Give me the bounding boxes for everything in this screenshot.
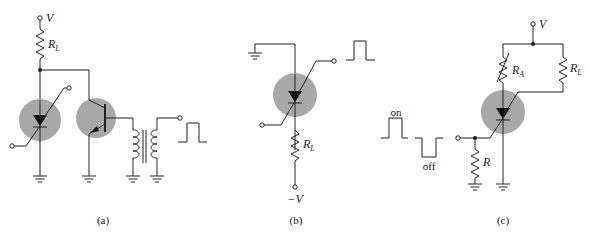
ground-icon [150, 176, 164, 182]
ground-icon [248, 53, 262, 59]
gate-resistor-r [471, 149, 479, 178]
secondary-coil-a [151, 130, 157, 158]
gate-input-terminal-c [456, 136, 460, 140]
pulse-waveform-b [346, 41, 375, 60]
resistor-label-b: RL [302, 137, 315, 153]
supply-label-a: V [46, 11, 55, 25]
supply-label-c: V [539, 17, 548, 31]
gate-terminal-a [67, 86, 71, 90]
resistor-label-r: R [482, 155, 491, 169]
resistor-label-a: RL [47, 37, 60, 53]
panel-c: on off V RA RL R (c) [381, 17, 582, 227]
pulse-off-waveform [415, 138, 443, 157]
input-terminal-b [260, 123, 264, 127]
pulse-waveform-a [178, 123, 207, 142]
pulse-on-label: on [391, 106, 403, 118]
load-resistor-a [36, 29, 44, 59]
pulse-off-label: off [423, 160, 436, 172]
ground-icon [468, 184, 482, 190]
gate-terminal-b [332, 59, 336, 63]
ground-icon [82, 176, 96, 182]
circuit-figure: V RL [0, 0, 590, 237]
resistor-label-rl-c: RL [569, 61, 582, 77]
supply-terminal-b [293, 185, 297, 189]
supply-label-b: −V [287, 192, 304, 206]
pulse-on-waveform [381, 118, 408, 138]
panel-b: RL −V (b) [248, 41, 375, 227]
supply-terminal-c [531, 22, 535, 26]
caption-c: (c) [497, 214, 510, 227]
primary-coil-a [133, 130, 139, 158]
ground-icon [33, 176, 47, 182]
load-resistor-rl-c [559, 57, 567, 83]
resistor-label-ra: RA [511, 63, 524, 79]
input-terminal-a [10, 144, 14, 148]
caption-b: (b) [290, 214, 303, 227]
caption-a: (a) [97, 214, 110, 227]
panel-a: V RL [10, 11, 207, 227]
ground-icon [496, 184, 510, 190]
ground-icon [126, 176, 140, 182]
output-terminal-a [178, 116, 182, 120]
supply-terminal-a [38, 16, 42, 20]
